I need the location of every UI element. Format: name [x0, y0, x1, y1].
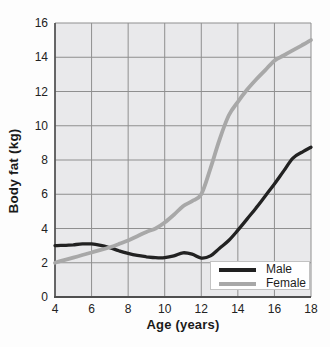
legend-label-female: Female [266, 277, 306, 290]
x-tick-label: 14 [225, 302, 251, 316]
x-axis-title: Age (years) [55, 317, 311, 332]
y-tick-label: 8 [20, 153, 48, 167]
y-tick-label: 14 [20, 50, 48, 64]
chart-canvas [0, 0, 330, 347]
x-tick-label: 8 [115, 302, 141, 316]
x-tick-label: 6 [79, 302, 105, 316]
legend-label-male: Male [266, 263, 292, 276]
y-tick-label: 0 [20, 290, 48, 304]
y-tick-label: 4 [20, 222, 48, 236]
x-tick-label: 16 [261, 302, 287, 316]
male-line-swatch [219, 268, 256, 272]
x-tick-label: 18 [298, 302, 324, 316]
x-tick-label: 12 [188, 302, 214, 316]
y-tick-label: 10 [20, 119, 48, 133]
y-tick-label: 6 [20, 187, 48, 201]
x-tick-label: 10 [152, 302, 178, 316]
x-tick-label: 4 [42, 302, 68, 316]
legend: Male Female [210, 261, 310, 290]
body-fat-chart: Body fat (kg) Age (years) 4681012141618 … [0, 0, 330, 347]
legend-item-female: Female [211, 277, 309, 290]
y-tick-label: 2 [20, 256, 48, 270]
y-tick-label: 16 [20, 16, 48, 30]
y-tick-label: 12 [20, 85, 48, 99]
legend-item-male: Male [211, 263, 309, 276]
female-line-swatch [219, 282, 256, 286]
